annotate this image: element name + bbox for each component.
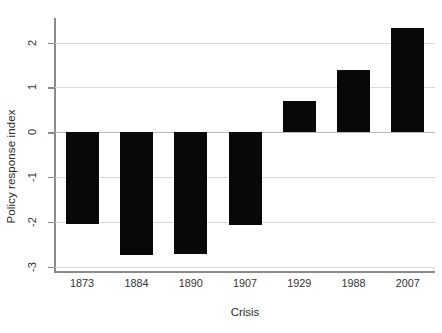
y-tick-label: -3 [25, 254, 39, 280]
x-axis-line [54, 271, 435, 273]
x-tick-label-1890: 1890 [165, 277, 217, 289]
bar-1929 [283, 101, 316, 132]
bar-1988 [337, 70, 370, 133]
y-tick-label: -1 [25, 164, 39, 190]
y-tick-label: 0 [25, 119, 39, 145]
plot-area [55, 18, 435, 271]
bar-chart-figure: Policy response index Crisis 210-1-2-318… [0, 0, 442, 333]
x-tick-label-1873: 1873 [56, 277, 108, 289]
gridline-y-1 [55, 87, 435, 88]
x-tick-label-1929: 1929 [273, 277, 325, 289]
y-tick-mark [48, 177, 54, 178]
y-tick-label: 1 [25, 74, 39, 100]
y-tick-mark [48, 132, 54, 133]
y-tick-label: -2 [25, 209, 39, 235]
x-tick-label-2007: 2007 [382, 277, 434, 289]
gridline-y-2 [55, 43, 435, 44]
x-tick-label-1988: 1988 [328, 277, 380, 289]
x-tick-label-1907: 1907 [219, 277, 271, 289]
y-tick-label: 2 [25, 30, 39, 56]
y-tick-mark [48, 87, 54, 88]
y-tick-mark [48, 43, 54, 44]
bar-1907 [229, 132, 262, 225]
gridline-y--3 [55, 267, 435, 268]
bar-1873 [66, 132, 99, 224]
bar-2007 [391, 28, 424, 132]
y-tick-mark [48, 267, 54, 268]
y-axis-title: Policy response index [0, 0, 22, 333]
x-axis-title: Crisis [55, 306, 435, 318]
bar-1890 [174, 132, 207, 254]
x-tick-label-1884: 1884 [110, 277, 162, 289]
y-tick-mark [48, 222, 54, 223]
bar-1884 [120, 132, 153, 255]
